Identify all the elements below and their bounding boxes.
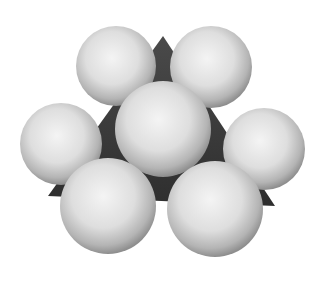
sphere-center (115, 81, 211, 177)
sphere-bottom-right (167, 161, 263, 257)
sphere-bottom-left (60, 158, 156, 254)
sphere-model-illustration (0, 0, 323, 284)
